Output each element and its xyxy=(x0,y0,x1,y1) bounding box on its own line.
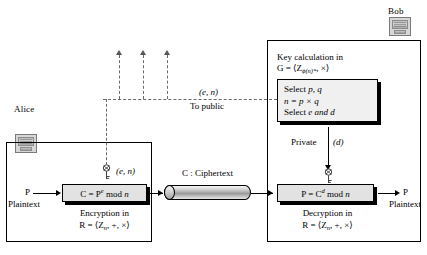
to-public-caption: To public xyxy=(190,101,224,113)
step-select-p-q: Select p, q xyxy=(284,84,371,96)
private-label: Private xyxy=(291,137,317,149)
public-channel-line xyxy=(103,99,277,100)
encryption-formula-modulus: n xyxy=(124,189,129,199)
decryption-formula-lhs: P = C xyxy=(301,189,321,199)
decryption-output-arrowhead-icon xyxy=(395,190,400,196)
key-glyph-icon xyxy=(101,164,112,180)
private-key-line xyxy=(328,127,329,167)
decryption-formula-modulus: n xyxy=(345,189,350,199)
encryption-ring: R = ⟨Zn, +, ×⟩ xyxy=(54,220,155,234)
rsa-cryptosystem-diagram: Bob Alice Key calculation in G = ⟨Zϕ(n)*… xyxy=(0,0,427,255)
key-calc-group-suffix: , ×⟩ xyxy=(316,63,329,73)
ciphertext-label: C : Ciphertext xyxy=(155,168,260,180)
encryption-ring-suffix: , +, ×⟩ xyxy=(107,220,130,230)
decryption-caption: Decryption in xyxy=(277,208,378,220)
decryption-formula-mod: mod xyxy=(325,189,346,199)
output-plaintext-caption: Plaintext xyxy=(389,199,421,211)
decryption-ring: R = ⟨Zn, +, ×⟩ xyxy=(277,220,378,234)
encryption-formula: C = Pe mod n xyxy=(80,185,129,201)
encryption-input-line xyxy=(33,193,57,194)
decryption-formula: P = Cd mod n xyxy=(301,185,350,201)
encryption-formula-mod: mod xyxy=(104,189,125,199)
step-n-equals-p-times-q: n = p × q xyxy=(284,96,371,108)
step-select-e-and-d: Select e and d xyxy=(284,107,371,119)
encryption-caption: Encryption in xyxy=(54,208,155,220)
public-broadcast-arrowhead-icon xyxy=(116,50,122,55)
encryption-formula-lhs: C = P xyxy=(80,189,101,199)
key-calc-group-subscript: ϕ(n)* xyxy=(302,67,316,74)
public-key-label: (e, n) xyxy=(199,87,218,99)
ciphertext-in-arrowhead-icon xyxy=(158,190,163,196)
key-calculation-title: Key calculation in xyxy=(277,52,343,64)
monitor-screen-icon xyxy=(392,20,408,29)
key-glyph-icon xyxy=(323,168,334,184)
public-key-branch-line xyxy=(106,99,107,165)
key-icon xyxy=(101,164,112,180)
input-plaintext-symbol: P xyxy=(25,187,30,199)
key-icon xyxy=(323,168,334,184)
alice-label: Alice xyxy=(14,104,35,114)
private-key-label: (d) xyxy=(333,137,344,149)
step-3-prefix: Select xyxy=(284,107,308,117)
public-broadcast-arrowhead-icon xyxy=(140,50,146,55)
ciphertext-channel-cylinder xyxy=(164,185,251,200)
key-generation-steps-box: Select p, q n = p × q Select e and d xyxy=(277,79,378,122)
ciphertext-out-arrowhead-icon xyxy=(268,190,273,196)
decryption-ring-suffix: , +, ×⟩ xyxy=(330,220,353,230)
decryption-output-line xyxy=(378,193,396,194)
step-1-prefix: Select xyxy=(284,84,308,94)
encryption-process-box: C = Pe mod n xyxy=(62,184,147,202)
decryption-ring-prefix: R = ⟨Z xyxy=(302,220,327,230)
public-broadcast-line-1 xyxy=(119,55,120,99)
bob-label: Bob xyxy=(388,6,404,16)
public-key-label-alice: (e, n) xyxy=(116,166,135,178)
input-plaintext-caption: Plaintext xyxy=(8,199,40,211)
key-calc-group-prefix: G = ⟨Z xyxy=(277,63,302,73)
encryption-ring-prefix: R = ⟨Z xyxy=(79,220,104,230)
step-3-suffix: and d xyxy=(312,107,335,117)
decryption-process-box: P = Cd mod n xyxy=(277,184,374,202)
monitor-stand-icon xyxy=(394,30,406,34)
key-calculation-group: G = ⟨Zϕ(n)*, ×⟩ xyxy=(277,63,329,77)
public-broadcast-line-3 xyxy=(167,55,168,99)
output-plaintext-symbol: P xyxy=(403,187,408,199)
encryption-input-arrowhead-icon xyxy=(56,190,61,196)
computer-icon xyxy=(389,17,411,36)
public-broadcast-arrowhead-icon xyxy=(164,50,170,55)
step-1-italic: p, q xyxy=(308,84,322,94)
public-broadcast-line-2 xyxy=(143,55,144,99)
step-2-suffix: = p × q xyxy=(289,96,319,106)
